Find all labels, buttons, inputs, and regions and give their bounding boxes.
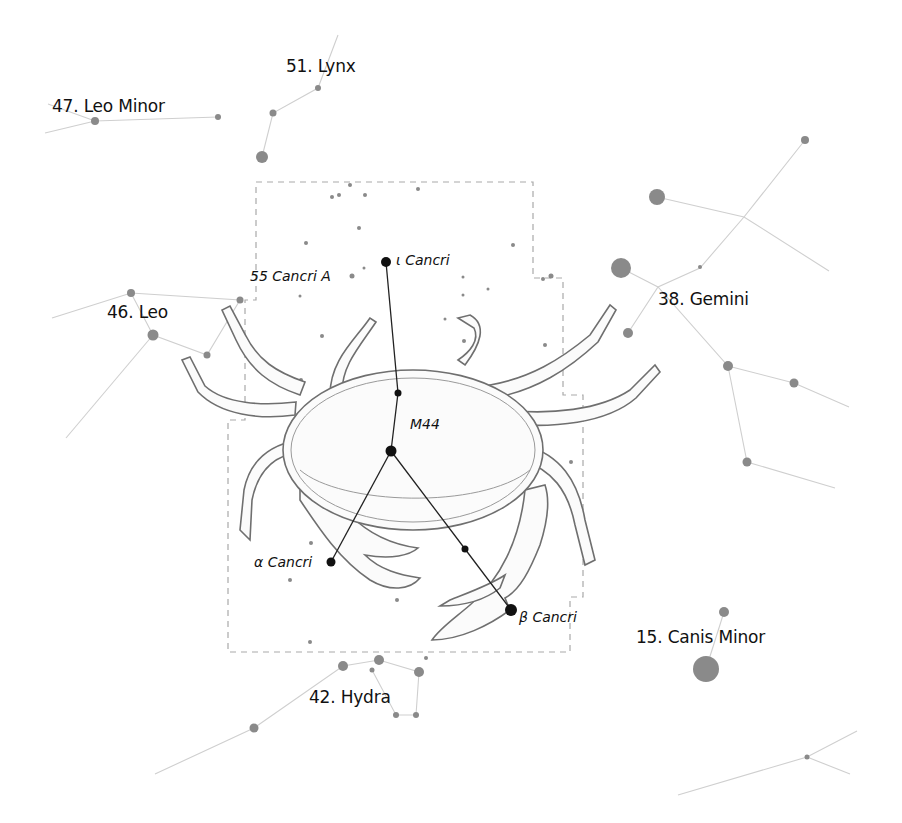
constellation-map (0, 0, 902, 823)
label-beta-cancri: β Cancri (519, 609, 577, 625)
label-gemini: 38. Gemini (658, 289, 749, 309)
label-m44: M44 (410, 416, 440, 432)
label-leo: 46. Leo (107, 302, 168, 322)
star-alpha-cancri (327, 558, 336, 567)
label-55-cancri-a: 55 Cancri A (250, 268, 331, 284)
label-canis-minor: 15. Canis Minor (636, 627, 765, 647)
label-lynx: 51. Lynx (286, 56, 356, 76)
star-chi-cancri (462, 546, 469, 553)
label-leo-minor: 47. Leo Minor (52, 96, 165, 116)
star-55-cancri (350, 274, 355, 279)
star-beta-cancri (505, 604, 517, 616)
star-delta-cancri (386, 446, 397, 457)
star-gamma-cancri (395, 390, 402, 397)
label-alpha-cancri: α Cancri (254, 554, 312, 570)
star-iota-cancri (381, 257, 391, 267)
crab-illustration (182, 305, 660, 640)
label-hydra: 42. Hydra (309, 687, 391, 707)
label-iota-cancri: ι Cancri (396, 252, 450, 268)
